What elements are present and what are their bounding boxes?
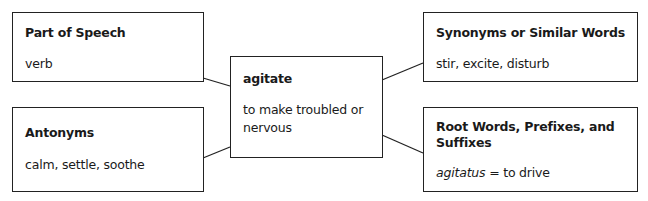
roots-content-root-word: agitatus (436, 165, 485, 180)
antonyms-content: calm, settle, soothe (25, 156, 145, 174)
roots-content-meaning: = to drive (485, 165, 549, 180)
synonyms-title: Synonyms or Similar Words (436, 25, 625, 41)
synonyms-content: stir, excite, disturb (436, 55, 549, 73)
synonyms-box: Synonyms or Similar Words stir, excite, … (423, 12, 638, 82)
connector-roots (382, 135, 423, 153)
part-of-speech-title: Part of Speech (25, 25, 126, 41)
connector-part-of-speech (203, 78, 230, 86)
roots-box: Root Words, Prefixes, and Suffixes agita… (423, 107, 638, 192)
center-word: agitate (243, 71, 292, 87)
connector-antonyms (203, 147, 230, 158)
part-of-speech-content: verb (25, 55, 52, 73)
center-definition: to make troubled or nervous (243, 101, 378, 137)
antonyms-title: Antonyms (25, 125, 94, 141)
antonyms-box: Antonyms calm, settle, soothe (12, 107, 204, 192)
part-of-speech-box: Part of Speech verb (12, 12, 204, 82)
center-word-box: agitate to make troubled or nervous (230, 56, 383, 158)
connector-synonyms (382, 63, 423, 80)
roots-title: Root Words, Prefixes, and Suffixes (436, 119, 631, 151)
roots-content: agitatus = to drive (436, 164, 550, 182)
